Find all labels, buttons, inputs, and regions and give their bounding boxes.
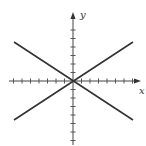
y-axis-label: y bbox=[79, 9, 86, 20]
y-axis-arrow-icon bbox=[71, 12, 76, 19]
y-axis bbox=[71, 12, 76, 145]
x-axis-arrow-icon bbox=[134, 79, 141, 84]
x-axis-label: x bbox=[139, 85, 145, 96]
coordinate-plane: x y bbox=[0, 0, 146, 146]
